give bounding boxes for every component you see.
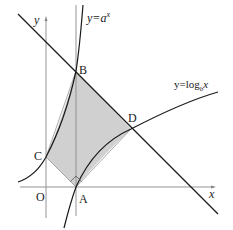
curve-label-logarithm: y=logbx	[174, 78, 208, 93]
line-BD	[18, 14, 218, 214]
point-label-A: A	[79, 192, 88, 206]
y-axis-arrow-icon	[45, 16, 48, 21]
point-label-B: B	[79, 63, 87, 77]
origin-label: O	[36, 190, 45, 204]
diagram-canvas: y x O B D C A y=ax y=logbx	[0, 0, 233, 230]
curve-label-exponential: y=ax	[86, 10, 110, 25]
x-axis-label: x	[208, 187, 215, 201]
point-label-D: D	[128, 111, 137, 125]
point-label-C: C	[34, 149, 42, 163]
y-axis-label: y	[33, 13, 40, 27]
